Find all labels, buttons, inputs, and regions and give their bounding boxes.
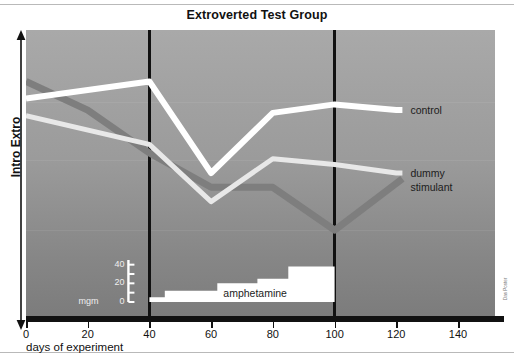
x-tick-label: 120 [387,328,405,340]
chart-title: Extroverted Test Group [0,8,514,22]
x-axis-line [26,316,504,322]
x-tick-label: 20 [82,328,94,340]
credit-text: Das Poster [503,278,508,300]
x-tick-label: 60 [205,328,217,340]
x-tick-label: 0 [23,328,29,340]
plot-panel: 40 20 0 mgm amphetamine control dummy st… [26,30,495,316]
legend-label-dummy: dummy [410,167,444,179]
x-tick-label: 80 [267,328,279,340]
y-axis-label: Intro Extro [9,107,23,187]
x-tick-label: 40 [143,328,155,340]
legend-label-stimulant: stimulant [410,181,452,193]
x-tick-label: 100 [325,328,343,340]
x-tick-label: 140 [449,328,467,340]
legend-label-control: control [410,104,442,116]
top-rule [0,4,514,5]
x-axis-title: days of experiment [26,341,123,353]
figure-root: Extroverted Test Group 40 20 0 mgm amphe… [0,0,514,358]
